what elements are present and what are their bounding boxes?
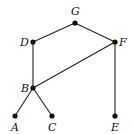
edge-B-C: [33, 88, 52, 116]
node-label-A: A: [10, 121, 19, 134]
labels: GDFBACE: [10, 5, 127, 134]
node-label-B: B: [20, 82, 29, 95]
node-label-E: E: [110, 121, 119, 134]
node-label-C: C: [48, 121, 57, 134]
node-D: [30, 39, 35, 44]
node-label-D: D: [19, 36, 29, 49]
node-label-F: F: [118, 36, 127, 49]
node-A: [12, 113, 17, 118]
node-label-G: G: [71, 5, 80, 18]
edge-F-B: [33, 42, 115, 88]
node-G: [72, 20, 77, 25]
node-F: [112, 39, 117, 44]
edges: [15, 23, 115, 116]
node-B: [30, 85, 35, 90]
node-E: [112, 113, 117, 118]
edge-G-D: [33, 23, 75, 42]
lattice-diagram: GDFBACE: [0, 0, 133, 134]
node-C: [49, 113, 54, 118]
edge-G-F: [75, 23, 115, 42]
